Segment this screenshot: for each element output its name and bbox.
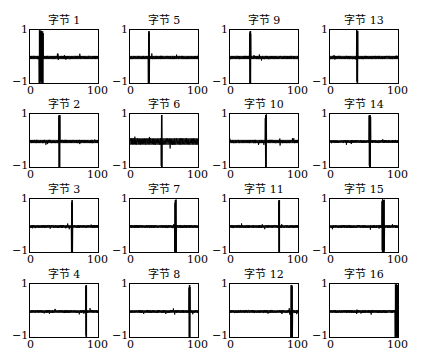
y-tick-max: 1 — [221, 24, 228, 35]
y-tick-min: −1 — [12, 245, 28, 256]
y-tick-max: 1 — [221, 108, 228, 119]
y-tick-min: −1 — [12, 76, 28, 87]
plot-area — [129, 198, 199, 253]
x-tick-max: 100 — [87, 85, 108, 96]
subplot-title: 字节 4 — [29, 269, 99, 281]
plot-area — [129, 29, 199, 84]
subplot-title: 字节 12 — [229, 269, 299, 281]
trace-line — [130, 284, 199, 338]
subplot-title: 字节 9 — [229, 15, 299, 27]
y-tick-min: −1 — [312, 76, 328, 87]
x-tick-min: 0 — [27, 85, 34, 96]
x-tick-min: 0 — [327, 339, 334, 350]
trace-line — [330, 114, 399, 168]
subplot-title: 字节 3 — [29, 184, 99, 196]
trace-line — [130, 114, 199, 168]
x-tick-min: 0 — [227, 254, 234, 265]
subplot-title: 字节 5 — [129, 15, 199, 27]
x-tick-max: 100 — [387, 254, 408, 265]
x-tick-min: 0 — [27, 169, 34, 180]
y-tick-max: 1 — [21, 24, 28, 35]
subplot-title: 字节 7 — [129, 184, 199, 196]
x-tick-min: 0 — [127, 85, 134, 96]
y-tick-min: −1 — [112, 160, 128, 171]
y-tick-max: 1 — [121, 24, 128, 35]
subplot-title: 字节 15 — [329, 184, 399, 196]
trace-line — [30, 284, 99, 338]
subplot-title: 字节 10 — [229, 99, 299, 111]
x-tick-min: 0 — [327, 85, 334, 96]
plot-area — [329, 113, 399, 168]
x-tick-max: 100 — [287, 339, 308, 350]
y-tick-min: −1 — [312, 245, 328, 256]
x-tick-min: 0 — [127, 339, 134, 350]
y-tick-min: −1 — [212, 245, 228, 256]
plot-area — [329, 198, 399, 253]
trace-line — [330, 199, 399, 253]
x-tick-max: 100 — [287, 85, 308, 96]
y-tick-max: 1 — [21, 108, 28, 119]
subplot-title: 字节 6 — [129, 99, 199, 111]
trace-line — [230, 114, 299, 168]
y-tick-min: −1 — [212, 76, 228, 87]
trace-line — [330, 284, 399, 338]
x-tick-max: 100 — [187, 254, 208, 265]
y-tick-max: 1 — [321, 278, 328, 289]
subplot-title: 字节 16 — [329, 269, 399, 281]
trace-line — [30, 30, 99, 84]
y-tick-max: 1 — [321, 108, 328, 119]
y-tick-min: −1 — [312, 160, 328, 171]
y-tick-max: 1 — [121, 108, 128, 119]
y-tick-min: −1 — [112, 330, 128, 341]
subplot-title: 字节 13 — [329, 15, 399, 27]
y-tick-min: −1 — [112, 76, 128, 87]
x-tick-min: 0 — [227, 85, 234, 96]
x-tick-min: 0 — [27, 339, 34, 350]
plot-area — [229, 198, 299, 253]
trace-line — [230, 199, 299, 253]
x-tick-max: 100 — [87, 339, 108, 350]
y-tick-max: 1 — [121, 278, 128, 289]
y-tick-max: 1 — [121, 193, 128, 204]
plot-area — [29, 29, 99, 84]
trace-line — [30, 114, 99, 168]
trace-line — [230, 284, 299, 338]
x-tick-min: 0 — [127, 169, 134, 180]
plot-area — [229, 113, 299, 168]
y-tick-min: −1 — [12, 330, 28, 341]
x-tick-max: 100 — [287, 169, 308, 180]
x-tick-max: 100 — [387, 85, 408, 96]
trace-line — [330, 30, 399, 84]
trace-line — [130, 199, 199, 253]
y-tick-max: 1 — [221, 193, 228, 204]
x-tick-min: 0 — [327, 254, 334, 265]
y-tick-max: 1 — [221, 278, 228, 289]
plot-area — [229, 283, 299, 338]
subplot-title: 字节 1 — [29, 15, 99, 27]
y-tick-max: 1 — [21, 193, 28, 204]
x-tick-min: 0 — [227, 339, 234, 350]
x-tick-max: 100 — [187, 85, 208, 96]
x-tick-max: 100 — [187, 339, 208, 350]
plot-area — [129, 113, 199, 168]
trace-line — [130, 30, 199, 84]
x-tick-max: 100 — [387, 339, 408, 350]
plot-area — [29, 113, 99, 168]
x-tick-min: 0 — [227, 169, 234, 180]
y-tick-max: 1 — [321, 193, 328, 204]
plot-area — [29, 198, 99, 253]
y-tick-max: 1 — [321, 24, 328, 35]
trace-line — [30, 199, 99, 253]
x-tick-min: 0 — [127, 254, 134, 265]
subplot-title: 字节 14 — [329, 99, 399, 111]
plot-area — [229, 29, 299, 84]
x-tick-max: 100 — [87, 169, 108, 180]
subplot-grid: 字节 1 1 −1 0 100 字节 2 1 −1 0 100 字节 3 1 −… — [0, 0, 421, 364]
y-tick-min: −1 — [212, 160, 228, 171]
subplot-title: 字节 8 — [129, 269, 199, 281]
y-tick-max: 1 — [21, 278, 28, 289]
x-tick-min: 0 — [327, 169, 334, 180]
plot-area — [29, 283, 99, 338]
x-tick-max: 100 — [387, 169, 408, 180]
plot-area — [129, 283, 199, 338]
